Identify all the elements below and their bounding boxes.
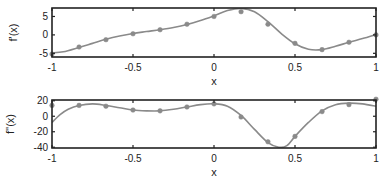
plot-area (52, 103, 376, 147)
y-tick-label: 5 (42, 11, 48, 22)
x-tick-label: 0.5 (288, 153, 302, 164)
data-marker (104, 37, 109, 42)
x-axis-label: x (211, 75, 217, 87)
data-marker (131, 108, 136, 113)
y-axis-label: f''(x) (4, 114, 16, 134)
data-marker (185, 105, 190, 110)
data-marker (266, 140, 271, 145)
data-marker (239, 9, 244, 14)
data-marker (77, 45, 82, 50)
data-marker (131, 31, 136, 36)
y-axis-label: f'(x) (7, 24, 19, 42)
data-marker (104, 104, 109, 109)
y-tick-label: 20 (37, 95, 49, 106)
x-tick-label: 0.5 (288, 62, 302, 73)
x-tick-label: -0.5 (124, 153, 142, 164)
x-tick-label: 0 (211, 153, 217, 164)
x-tick-label: -1 (48, 62, 57, 73)
data-marker (266, 22, 271, 27)
x-tick-label: -0.5 (124, 62, 142, 73)
x-axis-label: x (211, 166, 217, 178)
curve-line (52, 103, 376, 147)
data-marker (239, 115, 244, 120)
y-tick-label: 0 (42, 29, 48, 40)
data-marker (293, 134, 298, 139)
data-marker (77, 103, 82, 108)
data-marker (320, 47, 325, 52)
plot-fdoubleprime: -1-0.500.51-40-20020xf''(x) (4, 95, 379, 178)
data-marker (185, 22, 190, 27)
x-tick-label: 1 (373, 153, 379, 164)
data-marker (158, 27, 163, 32)
y-tick-label: 0 (42, 111, 48, 122)
data-marker (212, 14, 217, 19)
x-tick-label: -1 (48, 153, 57, 164)
data-marker (347, 40, 352, 45)
y-tick-label: -5 (39, 48, 48, 59)
plot-fprime: -1-0.500.51-505xf'(x) (7, 8, 379, 87)
x-tick-label: 1 (373, 62, 379, 73)
data-marker (293, 41, 298, 46)
x-tick-label: 0 (211, 62, 217, 73)
y-tick-label: -40 (34, 142, 49, 153)
data-marker (320, 109, 325, 114)
data-marker (158, 109, 163, 114)
chart-figure: -1-0.500.51-505xf'(x) -1-0.500.51-40-200… (0, 0, 392, 187)
data-marker (347, 102, 352, 107)
y-tick-label: -20 (34, 126, 49, 137)
